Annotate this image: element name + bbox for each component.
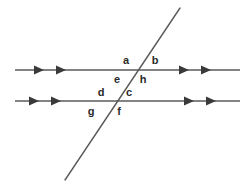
angle-label-h: h [140,74,147,85]
lower-line-arrowhead-3 [184,97,194,106]
lower-line-arrowhead-1 [29,97,39,106]
geometry-diagram-canvas [0,0,246,185]
angle-label-a: a [123,55,129,66]
lower-line-arrowhead-4 [206,97,216,106]
parallel-lines-transversal-figure: a b e h d c g f [0,0,246,185]
upper-line-arrowhead-3 [179,66,189,75]
upper-line-arrowhead-2 [56,66,66,75]
lower-line-arrowhead-2 [51,97,61,106]
transversal-line [65,8,180,180]
angle-label-g: g [88,106,95,117]
angle-label-c: c [126,87,132,98]
angle-label-d: d [98,87,105,98]
angle-label-b: b [152,55,159,66]
angle-label-e: e [114,74,120,85]
upper-line-arrowhead-4 [201,66,211,75]
angle-label-f: f [117,106,121,117]
upper-line-arrowhead-1 [34,66,44,75]
